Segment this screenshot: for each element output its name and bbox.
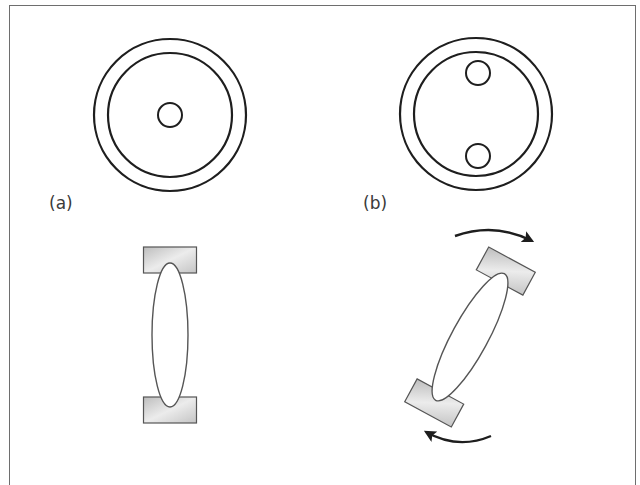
central-hole-a [158,103,182,127]
inner-ring-a [108,53,232,177]
panel-b-side-view [405,247,536,427]
upper-hole-b [466,61,490,85]
panel-label-a: (a) [49,193,73,213]
panel-a-top-view [94,39,246,191]
outer-ring-a [94,39,246,191]
lens-ellipse-b [420,265,520,409]
panel-a-side-view [144,247,197,423]
rotation-arrow-top-icon [455,230,532,241]
rotation-arrow-bottom-icon [426,432,491,442]
lens-ellipse-a [152,263,188,407]
inner-ring-b [414,52,538,176]
panel-b-top-view [400,38,552,190]
lower-hole-b [466,144,490,168]
panel-label-b: (b) [363,193,387,213]
